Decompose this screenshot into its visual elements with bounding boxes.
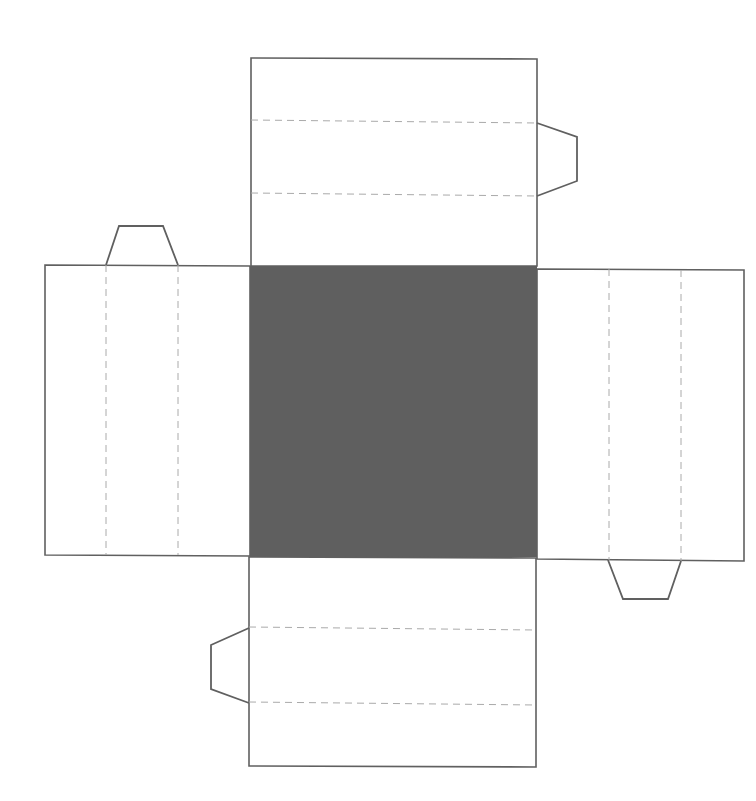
- tab-right-bottom: [608, 560, 681, 599]
- fold-line-bottom-1: [249, 627, 536, 630]
- fold-line-top-1: [251, 120, 537, 123]
- right-panel: [537, 269, 744, 561]
- bottom-panel: [249, 557, 536, 767]
- fold-line-top-2: [251, 193, 537, 196]
- tab-bottom-left: [211, 628, 249, 703]
- box-net-diagram: [0, 0, 756, 801]
- top-panel: [251, 58, 537, 266]
- tab-left-top: [106, 226, 178, 265]
- base-panel: [250, 266, 537, 557]
- tab-top-right: [537, 123, 577, 196]
- fold-line-bottom-2: [249, 702, 536, 705]
- left-panel: [45, 265, 250, 556]
